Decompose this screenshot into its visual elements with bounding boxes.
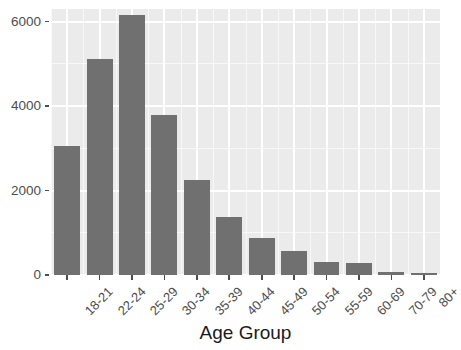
y-axis-tick: 2000: [11, 184, 51, 198]
gridline-minor-vertical: [246, 9, 247, 275]
gridline-minor-vertical: [83, 9, 84, 275]
gridline-major-vertical: [358, 9, 360, 275]
x-axis-tick-label: 35-39: [212, 284, 246, 318]
y-axis-tick-mark: [45, 274, 49, 276]
x-axis-tick-label: 22-24: [114, 284, 148, 318]
x-axis-tick-label: 25-29: [147, 284, 181, 318]
gridline-major-vertical: [326, 9, 328, 275]
gridline-major-vertical: [390, 9, 392, 275]
gridline-minor-vertical: [148, 9, 149, 275]
x-axis-tick-mark: [293, 275, 295, 280]
x-axis-tick-label: 30-34: [179, 284, 213, 318]
bar: [216, 217, 242, 275]
x-axis-tick-mark: [164, 275, 166, 280]
x-axis-tick-mark: [228, 275, 230, 280]
y-axis-tick-mark: [45, 105, 49, 107]
bar: [249, 238, 275, 275]
x-axis-tick-mark: [99, 275, 101, 280]
y-axis-tick-label: 0: [33, 268, 41, 282]
bar: [119, 15, 145, 275]
x-axis-tick-label: 18-21: [82, 284, 116, 318]
bar: [87, 59, 113, 275]
gridline-minor-vertical: [408, 9, 409, 275]
bar: [346, 263, 372, 275]
gridline-minor-vertical: [310, 9, 311, 275]
gridline-minor-vertical: [375, 9, 376, 275]
x-axis-tick-label: 55-59: [341, 284, 375, 318]
x-axis-tick-mark: [326, 275, 328, 280]
y-axis-tick-label: 4000: [11, 99, 41, 113]
y-axis-tick: 4000: [11, 99, 51, 113]
gridline-minor-vertical: [51, 9, 52, 275]
y-axis: 0200040006000: [0, 0, 51, 290]
x-axis-tick-label: 45-49: [276, 284, 310, 318]
y-axis-tick-mark: [45, 190, 49, 192]
y-axis-tick-mark: [45, 21, 49, 23]
gridline-major-vertical: [423, 9, 425, 275]
gridline-minor-vertical: [181, 9, 182, 275]
x-axis-tick-mark: [66, 275, 68, 280]
x-axis-title: Age Group: [51, 322, 440, 344]
bar: [54, 146, 80, 275]
gridline-minor-vertical: [343, 9, 344, 275]
bar: [314, 262, 340, 276]
y-axis-tick: 0: [33, 268, 51, 282]
gridline-major-vertical: [261, 9, 263, 275]
x-axis-tick-label: 40-44: [244, 284, 278, 318]
gridline-minor-vertical: [116, 9, 117, 275]
x-axis-tick-mark: [358, 275, 360, 280]
x-axis-tick-mark: [196, 275, 198, 280]
y-axis-tick: 6000: [11, 15, 51, 29]
bar: [184, 180, 210, 275]
bar: [151, 115, 177, 275]
gridline-minor-vertical: [278, 9, 279, 275]
x-axis-tick-label: 70-79: [406, 284, 440, 318]
plot-panel: [51, 9, 440, 275]
x-axis-tick-label: 60-69: [374, 284, 408, 318]
bar: [281, 251, 307, 275]
gridline-minor-vertical: [213, 9, 214, 275]
x-axis-tick-mark: [391, 275, 393, 280]
x-axis: 18-2122-2425-2930-3435-3940-4445-4950-54…: [51, 275, 440, 323]
x-axis-tick-mark: [131, 275, 133, 280]
y-axis-tick-label: 6000: [11, 15, 41, 29]
x-axis-tick-mark: [423, 275, 425, 280]
x-axis-tick-label: 80+: [435, 284, 461, 310]
y-axis-tick-label: 2000: [11, 184, 41, 198]
x-axis-tick-mark: [261, 275, 263, 280]
gridline-major-vertical: [293, 9, 295, 275]
x-axis-tick-label: 50-54: [309, 284, 343, 318]
